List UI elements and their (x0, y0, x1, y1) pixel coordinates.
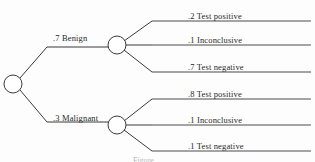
benign-branch-3-diagonal (124, 50, 152, 72)
malignant-outcome-label-3: .1 Test negative (188, 142, 244, 151)
malignant-chance-node (108, 116, 126, 134)
trunk-label-malignant: .3 Malignant (53, 114, 98, 123)
trunk-label-benign: .7 Benign (53, 34, 87, 43)
tree-diagram-canvas (0, 0, 315, 162)
malignant-outcome-label-1: .8 Test positive (188, 90, 242, 99)
benign-outcome-label-3: .7 Test negative (188, 63, 244, 72)
benign-outcome-label-2: .1 Inconclusive (188, 36, 242, 45)
benign-outcome-label-1: .2 Test positive (188, 12, 242, 21)
root-chance-node (4, 75, 22, 93)
malignant-outcome-label-2: .1 Inconclusive (188, 116, 242, 125)
trunk-branch-benign-line (20, 47, 113, 78)
tree-diagram-figure: .7 Benign .3 Malignant .2 Test positive … (0, 0, 315, 162)
figure-caption: Figure (133, 157, 154, 162)
benign-chance-node (108, 36, 126, 54)
malignant-branch-1-diagonal (124, 99, 152, 121)
malignant-branch-3-diagonal (124, 130, 152, 151)
benign-branch-1-diagonal (124, 21, 152, 41)
